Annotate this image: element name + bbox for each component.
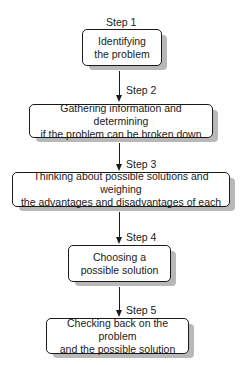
step-4-label: Step 4 xyxy=(126,231,156,243)
step-2-box: Gathering information and determining if… xyxy=(29,104,213,138)
step-3-text-line-1: Thinking about possible solutions and we… xyxy=(17,170,225,196)
step-5-text-line-1: Checking back on the problem xyxy=(51,317,184,343)
step-3-label: Step 3 xyxy=(126,158,156,170)
step-2-text-line-2: if the problem can be broken down xyxy=(34,128,208,141)
step-1-label: Step 1 xyxy=(106,16,136,28)
step-5-label: Step 5 xyxy=(126,304,156,316)
step-5-box: Checking back on the problem and the pos… xyxy=(46,318,189,354)
step-1-text-line-1: Identifying xyxy=(94,35,149,48)
step-5-text-line-2: and the possible solution xyxy=(51,343,184,356)
step-4-box: Choosing a possible solution xyxy=(68,245,171,282)
step-1-box: Identifying the problem xyxy=(82,29,162,66)
step-1-text-line-2: the problem xyxy=(94,48,149,61)
step-4-text-line-1: Choosing a xyxy=(81,251,159,264)
step-4-text-line-2: possible solution xyxy=(81,264,159,277)
step-3-box: Thinking about possible solutions and we… xyxy=(12,172,230,207)
step-2-label: Step 2 xyxy=(126,84,156,96)
step-2-text-line-1: Gathering information and determining xyxy=(34,102,208,128)
step-3-text-line-2: the advantages and disadvantages of each xyxy=(17,196,225,209)
